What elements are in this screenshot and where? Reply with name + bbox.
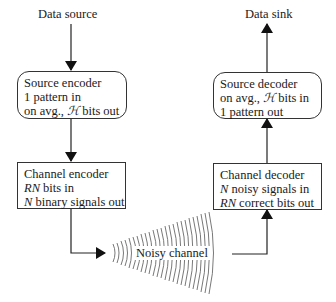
entropy-symbol: ℋ: [67, 104, 79, 118]
channel-decoder-input: N noisy signals in: [220, 182, 315, 196]
source-encoder-title: Source encoder: [24, 76, 120, 90]
channel-decoder-output: RN correct bits out: [220, 196, 315, 210]
source-encoder-block: Source encoder 1 pattern in on avg., ℋ b…: [17, 71, 127, 119]
arrow-channel-to-decoder: [232, 210, 267, 254]
channel-decoder-title: Channel decoder: [220, 168, 315, 182]
channel-encoder-input: RN bits in: [24, 181, 119, 195]
arrow-channel-encoder-to-channel: [71, 208, 105, 253]
source-encoder-output: on avg., ℋ bits out: [24, 104, 120, 118]
source-encoder-input: 1 pattern in: [24, 90, 120, 104]
source-decoder-input: on avg., ℋ bits in: [220, 91, 315, 105]
noisy-channel-label: Noisy channel: [134, 246, 210, 260]
source-decoder-output: 1 pattern out: [220, 105, 315, 119]
source-decoder-block: Source decoder on avg., ℋ bits in 1 patt…: [213, 72, 322, 119]
data-sink-label: Data sink: [245, 7, 293, 21]
channel-encoder-block: Channel encoder RN bits in N binary sign…: [17, 162, 126, 209]
source-decoder-title: Source decoder: [220, 77, 315, 91]
entropy-symbol: ℋ: [263, 91, 275, 105]
channel-encoder-title: Channel encoder: [24, 167, 119, 181]
channel-decoder-block: Channel decoder N noisy signals in RN co…: [213, 163, 322, 210]
data-source-label: Data source: [38, 7, 97, 21]
channel-encoder-output: N binary signals out: [24, 195, 119, 209]
